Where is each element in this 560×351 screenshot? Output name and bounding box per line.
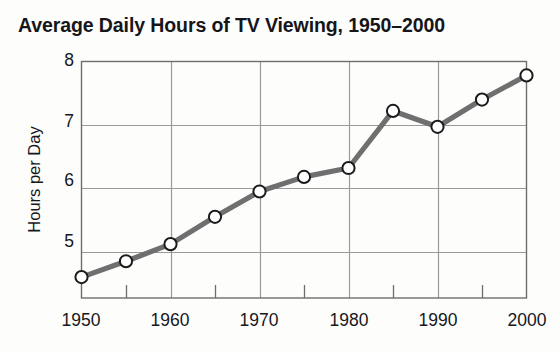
- data-point-marker: [342, 162, 354, 174]
- data-point-marker: [120, 255, 132, 267]
- chart-figure: Average Daily Hours of TV Viewing, 1950–…: [0, 0, 560, 351]
- data-markers: [75, 69, 532, 283]
- data-point-marker: [75, 271, 87, 283]
- data-point-marker: [253, 185, 265, 197]
- data-point-marker: [164, 238, 176, 250]
- data-point-marker: [520, 69, 532, 81]
- data-point-marker: [431, 121, 443, 133]
- data-point-marker: [387, 105, 399, 117]
- plot-area: [0, 0, 560, 351]
- data-point-marker: [476, 93, 488, 105]
- data-point-marker: [298, 171, 310, 183]
- data-point-marker: [209, 211, 221, 223]
- x-axis-minor-ticks: [127, 285, 483, 298]
